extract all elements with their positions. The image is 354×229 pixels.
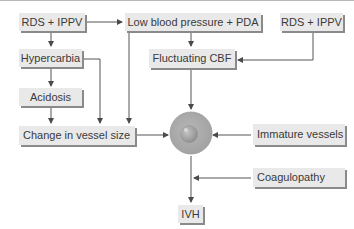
node-immature-vessels: Immature vessels <box>253 124 345 145</box>
arrow-rdsright-to-cbf <box>238 33 313 60</box>
node-hypercarbia: Hypercarbia <box>19 49 82 67</box>
connector-layer <box>0 0 354 229</box>
node-low-blood-pressure-pda: Low blood pressure + PDA <box>125 13 261 31</box>
node-change-in-vessel-size: Change in vessel size <box>19 126 135 145</box>
vessel-icon <box>170 112 212 154</box>
arrow-hypercarbia-to-change <box>84 59 100 123</box>
node-acidosis: Acidosis <box>19 88 82 106</box>
node-rds-ippv-left: RDS + IPPV <box>19 13 85 31</box>
node-coagulopathy: Coagulopathy <box>253 168 345 187</box>
node-rds-ippv-right: RDS + IPPV <box>280 13 343 31</box>
node-fluctuating-cbf: Fluctuating CBF <box>149 49 235 68</box>
node-ivh: IVH <box>178 205 203 223</box>
